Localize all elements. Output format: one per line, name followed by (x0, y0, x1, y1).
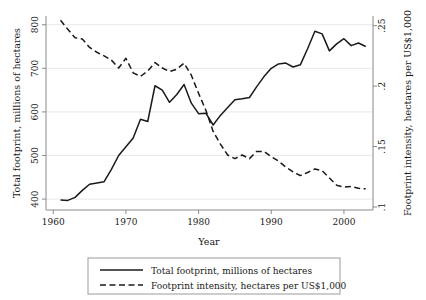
legend-label-2: Footprint intensity, hectares per US$1,0… (151, 281, 347, 291)
xtick-label-1980: 1980 (187, 217, 210, 227)
legend: Total footprint, millions of hectaresFoo… (88, 258, 347, 294)
left-axis-tick-labels: 400500600700800 (30, 16, 40, 208)
y2tick-label-.1: .1 (377, 203, 387, 212)
data-series-layer (61, 20, 366, 200)
ytick-label-500: 500 (30, 147, 40, 164)
x-axis-tick-labels: 19601970198019902000 (42, 217, 356, 227)
xtick-label-2000: 2000 (332, 217, 355, 227)
legend-label-1: Total footprint, millions of hectares (151, 266, 312, 276)
ytick-label-700: 700 (30, 59, 40, 76)
y2tick-label-.25: .25 (377, 18, 387, 33)
y-axis-title: Total footprint, millions of hectares (11, 28, 22, 198)
y2tick-label-.2: .2 (377, 82, 387, 91)
y2tick-label-.15: .15 (377, 139, 387, 154)
x-axis-title: Year (197, 236, 220, 247)
series-line-2 (61, 20, 366, 189)
ytick-label-800: 800 (30, 16, 40, 33)
xtick-label-1990: 1990 (260, 217, 283, 227)
ytick-label-600: 600 (30, 103, 40, 120)
chart-canvas: 400500600700800 .1.15.2.25 1960197019801… (0, 0, 426, 300)
chart-figure: 400500600700800 .1.15.2.25 1960197019801… (0, 0, 426, 300)
y2-axis-title: Footprint intensity, hectares per US$1,0… (402, 10, 413, 216)
right-axis-tick-labels: .1.15.2.25 (377, 18, 387, 211)
xtick-label-1970: 1970 (114, 217, 137, 227)
ytick-label-400: 400 (30, 190, 40, 207)
xtick-label-1960: 1960 (42, 217, 65, 227)
